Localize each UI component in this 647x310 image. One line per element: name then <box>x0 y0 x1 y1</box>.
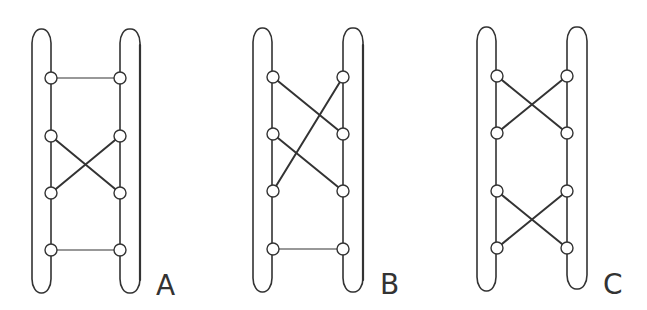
node-r1 <box>337 71 349 83</box>
node-r4 <box>337 243 349 255</box>
diagram-a <box>32 29 140 293</box>
diagram-label-c: C <box>603 268 623 301</box>
node-r1 <box>114 72 126 84</box>
rung-l1-r2 <box>273 77 343 134</box>
node-r4 <box>114 244 126 256</box>
node-r2 <box>337 128 349 140</box>
node-l1 <box>267 71 279 83</box>
rung-r1-l3 <box>273 77 343 191</box>
node-l3 <box>491 185 503 197</box>
node-l4 <box>45 244 57 256</box>
diagram-label-a: A <box>156 269 175 302</box>
node-l4 <box>267 243 279 255</box>
node-l3 <box>45 187 57 199</box>
node-l2 <box>45 130 57 142</box>
node-r1 <box>561 70 573 82</box>
node-r2 <box>114 130 126 142</box>
node-r4 <box>561 242 573 254</box>
node-r2 <box>561 127 573 139</box>
node-l2 <box>267 128 279 140</box>
diagram-c <box>477 27 587 291</box>
diagram-label-b: B <box>380 268 399 301</box>
node-r3 <box>337 185 349 197</box>
node-l2 <box>491 127 503 139</box>
node-l3 <box>267 185 279 197</box>
diagram-b <box>253 28 363 292</box>
node-r3 <box>114 187 126 199</box>
node-r3 <box>561 185 573 197</box>
node-l4 <box>491 242 503 254</box>
rung-l2-r3 <box>273 134 343 191</box>
ladder-diagrams: A B C <box>0 0 647 310</box>
node-l1 <box>45 72 57 84</box>
node-l1 <box>491 70 503 82</box>
